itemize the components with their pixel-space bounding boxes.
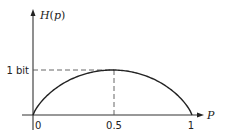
x-tick-0: 0 — [35, 120, 41, 131]
x-tick-0-5: 0.5 — [106, 120, 122, 131]
x-axis-label: P — [206, 109, 215, 122]
entropy-chart: H(p) P 1 bit 0 0.5 1 — [0, 0, 226, 138]
x-tick-1: 1 — [188, 120, 194, 131]
y-axis-arrow-icon — [31, 9, 36, 16]
y-tick-1bit: 1 bit — [6, 65, 29, 76]
entropy-curve — [33, 70, 192, 115]
y-axis-label: H(p) — [39, 9, 65, 22]
x-axis-arrow-icon — [197, 113, 204, 118]
